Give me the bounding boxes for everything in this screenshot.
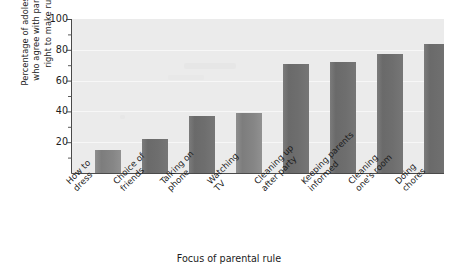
scan-artifact: [168, 75, 204, 80]
y-axis-tick-labels: 100 80 60 40 20: [38, 12, 68, 180]
scan-artifact: [120, 115, 125, 119]
x-axis-tick-labels: How to dress Choice of friends Talking o…: [0, 173, 458, 243]
x-axis-title: Focus of parental rule: [0, 253, 458, 264]
bar-how-to-dress: [95, 150, 121, 173]
plot-area: [72, 19, 444, 173]
bar-chart-figure: Percentage of adolescents who agree with…: [0, 0, 458, 279]
y-tick-label-60: 60: [56, 76, 68, 86]
y-tick-label-100: 100: [50, 14, 68, 24]
y-tick-label-20: 20: [56, 137, 68, 147]
gridline-80: [72, 50, 444, 51]
scan-artifact: [184, 63, 236, 69]
bar-doing-chores: [424, 44, 444, 173]
y-tick-label-40: 40: [56, 106, 68, 116]
y-tick-label-80: 80: [56, 45, 68, 55]
